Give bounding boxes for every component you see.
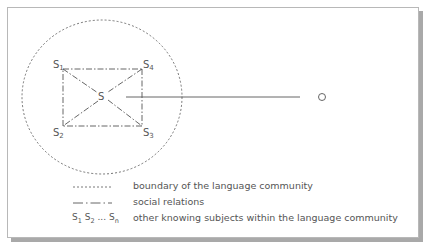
node-s2: S2 [53,127,64,140]
legend-subjects-text: other knowing subjects within the langua… [133,212,398,223]
legend-subjects-symbol: S1 S2 ... Sn [72,212,119,225]
legend-boundary-text: boundary of the language community [133,180,313,191]
legend-relations-text: social relations [133,196,204,207]
node-s1: S1 [53,59,64,72]
node-s4: S4 [143,59,154,72]
object-node [319,94,326,101]
node-s3: S3 [143,127,154,140]
node-s-center: S [98,91,104,102]
